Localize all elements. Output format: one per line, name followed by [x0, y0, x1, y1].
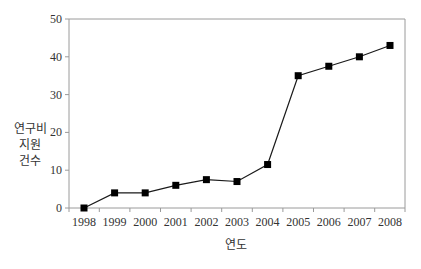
x-tick-label: 1998 [72, 215, 96, 229]
data-point-marker [356, 53, 363, 60]
data-point-marker [264, 161, 271, 168]
x-tick-label: 2001 [164, 215, 188, 229]
y-axis-title: 연구비지원건수 [14, 122, 47, 168]
x-tick-label: 2005 [286, 215, 310, 229]
y-tick-label: 40 [50, 50, 62, 64]
y-tick-label: 10 [50, 163, 62, 177]
y-axis: 01020304050 [50, 12, 69, 215]
y-tick-label: 20 [50, 125, 62, 139]
y-axis-title-line: 건수 [19, 154, 41, 168]
line-chart: 01020304050 1998199920002001200220032004… [0, 0, 421, 269]
x-axis-title: 연도 [225, 238, 247, 252]
y-axis-title-line: 지원 [19, 138, 41, 152]
data-point-marker [234, 178, 241, 185]
data-point-marker [387, 42, 394, 49]
data-series [81, 42, 394, 212]
y-tick-label: 30 [50, 88, 62, 102]
x-axis: 1998199920002001200220032004200520062007… [69, 208, 405, 229]
x-tick-label: 2007 [347, 215, 371, 229]
x-tick-label: 2008 [378, 215, 402, 229]
y-tick-label: 50 [50, 12, 62, 26]
x-tick-label: 1999 [103, 215, 127, 229]
data-point-marker [295, 72, 302, 79]
y-axis-title-line: 연구비 [14, 122, 47, 136]
x-tick-label: 2004 [256, 215, 280, 229]
data-point-marker [81, 205, 88, 212]
x-tick-label: 2002 [194, 215, 218, 229]
x-tick-label: 2006 [317, 215, 341, 229]
data-point-marker [203, 176, 210, 183]
y-tick-label: 0 [56, 201, 62, 215]
x-tick-label: 2000 [133, 215, 157, 229]
data-point-marker [325, 63, 332, 70]
data-point-marker [111, 189, 118, 196]
data-point-marker [172, 182, 179, 189]
x-tick-label: 2003 [225, 215, 249, 229]
data-point-marker [142, 189, 149, 196]
